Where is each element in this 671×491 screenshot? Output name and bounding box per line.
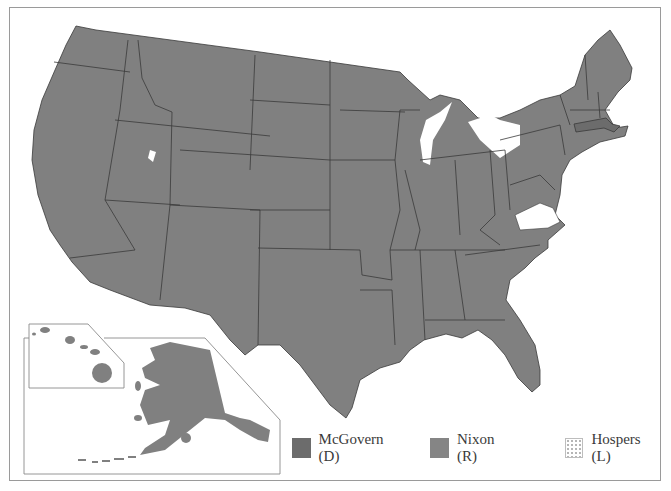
legend-item-mcgovern: McGovern (D)	[292, 431, 406, 465]
hawaii	[32, 327, 112, 383]
legend: McGovern (D) Nixon (R) Hospers (L)	[292, 434, 662, 462]
legend-swatch-hospers	[565, 438, 584, 458]
legend-swatch-nixon	[430, 438, 449, 458]
legend-label-nixon: Nixon (R)	[457, 431, 517, 465]
legend-swatch-mcgovern	[292, 438, 311, 458]
alaska	[140, 342, 270, 455]
legend-item-hospers: Hospers (L)	[565, 431, 662, 465]
legend-label-mcgovern: McGovern (D)	[319, 431, 407, 465]
legend-label-hospers: Hospers (L)	[591, 431, 662, 465]
us-map	[0, 0, 671, 491]
legend-item-nixon: Nixon (R)	[430, 431, 517, 465]
